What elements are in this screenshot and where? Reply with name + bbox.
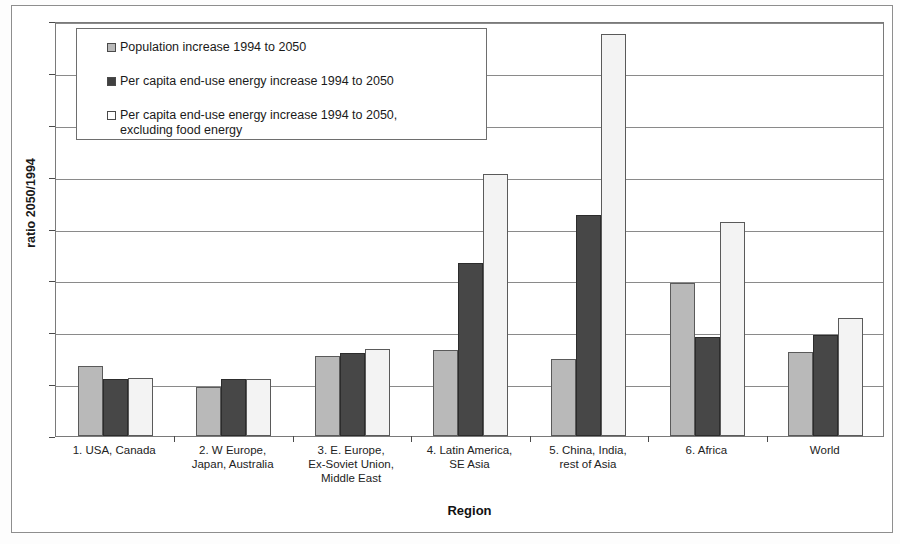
x-category-label: 6. Africa	[647, 443, 765, 457]
y-tick-mark	[49, 230, 55, 231]
legend-item-per-capita-energy: Per capita end-use energy increase 1994 …	[107, 74, 394, 89]
legend-label-per-capita-energy: Per capita end-use energy increase 1994 …	[120, 74, 394, 89]
x-axis-category-labels: 1. USA, Canada2. W Europe, Japan, Austra…	[55, 443, 884, 503]
legend-label-per-capita-energy-excl-food: Per capita end-use energy increase 1994 …	[120, 108, 397, 138]
chart-legend: Population increase 1994 to 2050 Per cap…	[76, 28, 487, 140]
x-category-label: 2. W Europe, Japan, Australia	[173, 443, 291, 471]
x-category-label: 5. China, India, rest of Asia	[529, 443, 647, 471]
legend-swatch-per-capita-energy-excl-food-icon	[107, 111, 116, 120]
y-tick-mark	[49, 333, 55, 334]
y-tick-mark	[49, 74, 55, 75]
y-axis-title: ratio 2050/1994	[24, 158, 38, 248]
chart-figure: 012345678 ratio 2050/1994 1. USA, Canada…	[0, 0, 900, 544]
legend-swatch-population-icon	[107, 43, 116, 52]
x-category-label: 1. USA, Canada	[55, 443, 173, 457]
y-tick-mark	[49, 281, 55, 282]
y-tick-mark	[49, 437, 55, 438]
legend-item-per-capita-energy-excl-food: Per capita end-use energy increase 1994 …	[107, 108, 397, 138]
y-tick-mark	[49, 178, 55, 179]
legend-label-population: Population increase 1994 to 2050	[120, 40, 306, 55]
x-category-label: 3. E. Europe, Ex-Soviet Union, Middle Ea…	[292, 443, 410, 485]
y-tick-mark	[49, 126, 55, 127]
legend-item-population: Population increase 1994 to 2050	[107, 40, 306, 55]
legend-swatch-per-capita-energy-icon	[107, 77, 116, 86]
x-category-label: World	[766, 443, 884, 457]
x-category-label: 4. Latin America, SE Asia	[410, 443, 528, 471]
x-axis-title: Region	[55, 503, 884, 518]
y-tick-mark	[49, 385, 55, 386]
y-tick-mark	[49, 22, 55, 23]
